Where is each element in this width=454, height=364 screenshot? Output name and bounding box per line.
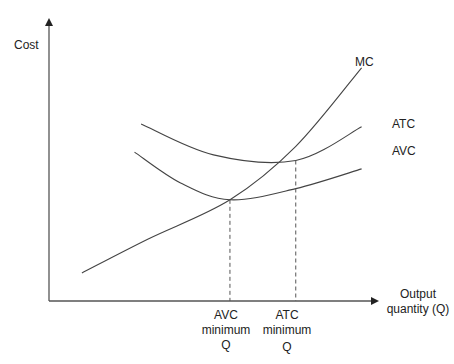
atc-minimum-line1: ATC — [275, 308, 298, 322]
avc-minimum-line2: minimum — [202, 323, 251, 337]
atc-minimum-annotation: ATC minimum Q — [263, 308, 312, 354]
mc-curve — [82, 68, 362, 273]
avc-minimum-line1: AVC — [214, 308, 238, 322]
avc-label: AVC — [392, 144, 416, 158]
atc-minimum-line2: minimum — [263, 323, 312, 337]
x-axis-label-line2: quantity (Q) — [387, 302, 450, 316]
atc-curve — [141, 124, 362, 163]
atc-minimum-line3: Q — [282, 340, 291, 354]
atc-label: ATC — [392, 117, 415, 131]
y-axis-label: Cost — [14, 38, 39, 52]
mc-label: MC — [355, 55, 374, 69]
x-axis-label-line1: Output — [400, 287, 437, 301]
avc-curve — [135, 152, 362, 200]
avc-minimum-line3: Q — [221, 338, 230, 352]
cost-curves-diagram: Cost Output quantity (Q) MC ATC AVC AVC … — [0, 0, 454, 364]
avc-minimum-annotation: AVC minimum Q — [202, 308, 251, 352]
